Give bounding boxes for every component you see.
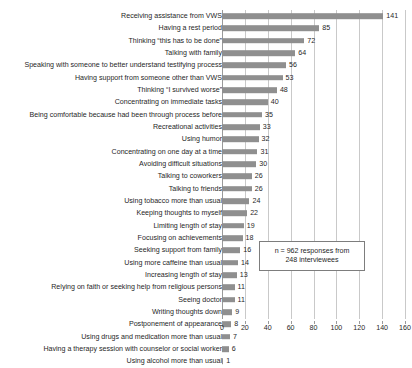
bar-value-label: 40	[271, 98, 279, 106]
bar-value-label: 35	[265, 111, 273, 119]
category-label: Concentrating on immediate tasks	[115, 98, 222, 106]
bar	[222, 63, 286, 69]
bar-value-label: 14	[241, 259, 249, 267]
bar-row: Avoiding difficult situations30	[0, 158, 412, 170]
category-label: Keeping thoughts to myself	[136, 209, 222, 217]
bar-rows: Receiving assistance from VWS141Having a…	[0, 10, 412, 368]
bar-row: Thinking “this has to be done”72	[0, 35, 412, 47]
bar	[222, 272, 237, 278]
category-label: Using tobacco more than usual	[124, 197, 222, 205]
bar-row: Concentrating on immediate tasks40	[0, 96, 412, 108]
bar-value-label: 6	[232, 345, 236, 353]
bar-container: 141	[222, 10, 412, 22]
bar	[222, 100, 268, 106]
x-tick-label-20: 20	[241, 324, 249, 333]
x-tick-label-80: 80	[310, 324, 318, 333]
x-tick-label-0: 0	[220, 324, 224, 333]
bar	[222, 235, 243, 241]
bar-row: Concentrating on one day at a time31	[0, 146, 412, 158]
bar-value-label: 11	[238, 296, 245, 304]
category-label: Recreational activities	[153, 123, 222, 131]
x-tick-label-160: 160	[399, 324, 411, 333]
bar	[222, 260, 238, 266]
bar-row: Talking to friends26	[0, 183, 412, 195]
bar-container: 53	[222, 72, 412, 84]
bar-container: 24	[222, 195, 412, 207]
bar-value-label: 72	[307, 37, 315, 45]
bar	[222, 285, 235, 291]
bar-row: Relying on faith or seeking help from re…	[0, 281, 412, 293]
x-tick-label-40: 40	[264, 324, 272, 333]
x-tick-label-60: 60	[287, 324, 295, 333]
bar-value-label: 18	[246, 234, 254, 242]
bar-value-label: 85	[322, 24, 330, 32]
bar-container: 9	[222, 306, 412, 318]
bar-row: Talking to coworkers26	[0, 170, 412, 182]
bar-container: 72	[222, 35, 412, 47]
bar	[222, 137, 259, 143]
bar-row: Having support from someone other than V…	[0, 72, 412, 84]
bar-row: Using alcohol more than usual1	[0, 355, 412, 367]
category-label: Relying on faith or seeking help from re…	[51, 283, 222, 291]
category-label: Talking to friends	[169, 185, 222, 193]
category-label: Increasing length of stay	[145, 271, 222, 279]
bar-row: Using humor32	[0, 133, 412, 145]
bar-value-label: 19	[247, 222, 255, 230]
bar-value-label: 16	[243, 246, 251, 254]
bar-value-label: 53	[286, 74, 294, 82]
category-label: Receiving assistance from VWS	[121, 12, 222, 20]
annotation-line-2: 248 interviewees	[285, 256, 338, 266]
bar-row: Receiving assistance from VWS141	[0, 10, 412, 22]
bar-value-label: 33	[263, 123, 271, 131]
bar	[222, 75, 283, 81]
category-label: Talking to coworkers	[158, 172, 222, 180]
category-label: Having support from someone other than V…	[75, 74, 222, 82]
bar-container: 35	[222, 109, 412, 121]
bar	[222, 13, 383, 19]
category-label: Using drugs and medication more than usu…	[81, 333, 222, 341]
category-label: Using alcohol more than usual	[127, 357, 222, 365]
x-tick-label-140: 140	[376, 324, 388, 333]
bar-container: 32	[222, 133, 412, 145]
category-label: Writing thoughts down	[152, 308, 222, 316]
category-label: Seeking support from family	[134, 246, 222, 254]
category-label: Focusing on achievements	[138, 234, 222, 242]
bar-value-label: 30	[259, 160, 267, 168]
bar-row: Recreational activities33	[0, 121, 412, 133]
bar-row: Seeing doctor11	[0, 294, 412, 306]
bar-value-label: 26	[255, 172, 263, 180]
bar-container: 19	[222, 220, 412, 232]
bar-row: Writing thoughts down9	[0, 306, 412, 318]
category-label: Postponement of appearance	[129, 320, 222, 328]
x-axis: 020406080100120140160	[222, 321, 405, 337]
bar-container: 31	[222, 146, 412, 158]
bar-row: Talking with family64	[0, 47, 412, 59]
bar-row: Speaking with someone to better understa…	[0, 59, 412, 71]
bar-row: Having a therapy session with counselor …	[0, 343, 412, 355]
bar-container: 11	[222, 281, 412, 293]
category-label: Avoiding difficult situations	[139, 160, 222, 168]
category-label: Having a rest period	[159, 24, 222, 32]
bar-container: 56	[222, 59, 412, 71]
bar	[222, 223, 244, 229]
bar-container: 48	[222, 84, 412, 96]
bar-container: 85	[222, 22, 412, 34]
bar	[222, 297, 235, 303]
bar	[222, 359, 223, 365]
bar-value-label: 26	[255, 185, 263, 193]
bar-value-label: 1	[226, 357, 230, 365]
bar	[222, 309, 232, 315]
category-label: Being comfortable because had been throu…	[30, 111, 222, 119]
bar-container: 26	[222, 170, 412, 182]
bar-container: 64	[222, 47, 412, 59]
bar-value-label: 22	[250, 209, 258, 217]
x-tick-label-120: 120	[353, 324, 365, 333]
bar	[222, 50, 295, 56]
bar	[222, 248, 240, 254]
bar-value-label: 56	[289, 61, 297, 69]
bar	[222, 124, 260, 130]
bar	[222, 149, 257, 155]
bar-value-label: 9	[235, 308, 239, 316]
bar-value-label: 32	[262, 135, 270, 143]
